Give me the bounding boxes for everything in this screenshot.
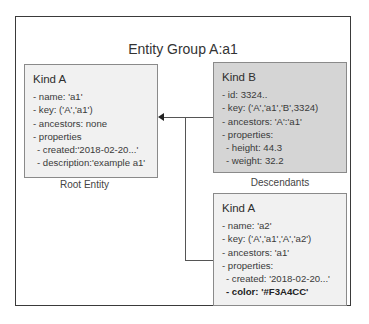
kind-a-child-entity-property-color: - color: '#F3A4CC' — [222, 285, 346, 298]
kind-b-entity-ancestors: - ancestors: 'A':'a1' — [222, 115, 346, 128]
kind-b-entity-id: - id: 3324.. — [222, 88, 346, 101]
kind-b-entity-property-height: - height: 44.3 — [222, 141, 346, 154]
arrowhead-icon — [158, 113, 164, 121]
connector-horizontal-to-kind-a-child — [185, 260, 213, 261]
root-entity-name: - name: 'a1' — [33, 90, 157, 103]
kind-a-child-entity-ancestors: - ancestors: 'a1' — [222, 246, 346, 259]
root-entity-ancestors: - ancestors: none — [33, 117, 157, 130]
kind-a-child-entity-key: - key: ('A','a1','A','a2') — [222, 232, 346, 245]
kind-b-entity-key: - key: ('A','a1','B',3324) — [222, 101, 346, 114]
root-entity-property-created: - created:'2018-02-20...' — [33, 143, 157, 156]
kind-a-child-entity-box: Kind A - name: 'a2' - key: ('A','a1','A'… — [213, 193, 347, 306]
kind-a-child-entity-properties-label: - properties: — [222, 259, 346, 272]
connector-horizontal-to-kind-b — [162, 117, 213, 118]
root-entity-property-description: - description:'example a1' — [33, 156, 157, 169]
connector-vertical-trunk — [185, 117, 186, 261]
kind-a-child-entity-name: - name: 'a2' — [222, 219, 346, 232]
kind-b-entity-kind: Kind B — [222, 69, 346, 85]
kind-a-child-entity-kind: Kind A — [222, 200, 346, 216]
kind-b-entity-property-weight: - weight: 32.2 — [222, 154, 346, 167]
kind-b-entity-box: Kind B - id: 3324.. - key: ('A','a1','B'… — [213, 62, 347, 173]
descendants-caption: Descendants — [213, 177, 347, 188]
entity-group-title: Entity Group A:a1 — [16, 41, 350, 57]
root-entity-key: - key: ('A','a1') — [33, 103, 157, 116]
root-entity-box: Kind A - name: 'a1' - key: ('A','a1') - … — [24, 64, 158, 178]
root-entity-caption: Root Entity — [60, 179, 109, 190]
kind-b-entity-properties-label: - properties: — [222, 128, 346, 141]
kind-a-child-entity-property-created: - created: '2018-02-20...' — [222, 272, 346, 285]
root-entity-kind: Kind A — [33, 71, 157, 87]
root-entity-properties-label: - properties — [33, 130, 157, 143]
